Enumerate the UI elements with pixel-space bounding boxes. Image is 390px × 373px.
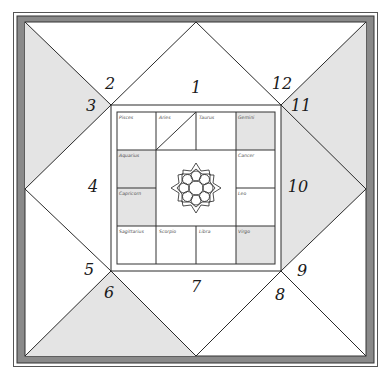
sign-leo: Leo: [238, 191, 246, 196]
sign-scorpio: Scorpio: [159, 229, 176, 234]
sign-virgo: Virgo: [238, 229, 250, 234]
house-number-5: 5: [84, 260, 94, 279]
house-number-1: 1: [191, 78, 201, 97]
house-number-11: 11: [291, 96, 311, 115]
sign-aries: Aries: [158, 115, 171, 120]
house-number-8: 8: [275, 285, 285, 304]
sign-libra: Libra: [199, 229, 211, 234]
house-number-12: 12: [272, 74, 292, 93]
sign-taurus: Taurus: [199, 115, 215, 120]
astrology-chart: Pisces Aries Taurus Gemini Aquarius Canc…: [0, 0, 390, 373]
house-number-7: 7: [191, 277, 202, 296]
sign-aquarius: Aquarius: [118, 153, 140, 158]
sign-gemini: Gemini: [238, 115, 255, 120]
house-number-3: 3: [86, 96, 96, 115]
sign-capricorn: Capricorn: [119, 191, 141, 196]
house-number-9: 9: [297, 261, 307, 280]
house-number-2: 2: [104, 74, 115, 93]
house-number-10: 10: [288, 177, 308, 196]
sign-cancer: Cancer: [238, 153, 255, 158]
house-number-4: 4: [87, 177, 98, 196]
sign-pisces: Pisces: [119, 115, 134, 120]
house-number-6: 6: [104, 283, 114, 302]
sign-sagittarius: Sagittarius: [119, 229, 144, 234]
